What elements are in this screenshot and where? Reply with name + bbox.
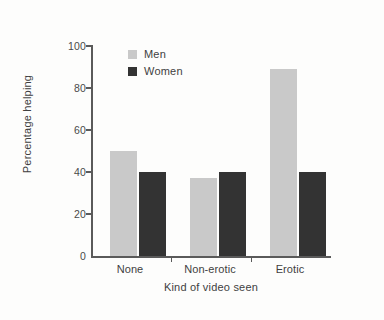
y-tick-label-40: 40 bbox=[56, 166, 86, 178]
legend-label-women: Women bbox=[144, 66, 183, 77]
bar-nonerotic-men bbox=[190, 178, 217, 256]
legend-swatch-women bbox=[128, 67, 137, 76]
y-tick-100 bbox=[86, 45, 91, 46]
legend: Men Women bbox=[128, 47, 183, 81]
x-axis-line bbox=[91, 256, 331, 258]
bar-erotic-men bbox=[270, 69, 297, 256]
legend-swatch-men bbox=[128, 50, 137, 59]
y-tick-label-60: 60 bbox=[56, 124, 86, 136]
bar-none-men bbox=[110, 151, 137, 256]
x-tick-1 bbox=[171, 257, 172, 262]
y-tick-label-20: 20 bbox=[56, 208, 86, 220]
x-axis-title: Kind of video seen bbox=[92, 281, 330, 293]
x-tick-label-erotic: Erotic bbox=[240, 263, 340, 275]
bar-erotic-women bbox=[299, 172, 326, 256]
y-tick-label-100: 100 bbox=[56, 40, 86, 52]
bar-chart-figure: 100 80 60 40 20 0 Percentage helping Non… bbox=[0, 0, 384, 320]
y-tick-40 bbox=[86, 171, 91, 172]
legend-item-women: Women bbox=[128, 64, 183, 79]
y-tick-label-0: 0 bbox=[56, 250, 86, 262]
y-tick-80 bbox=[86, 87, 91, 88]
x-tick-2 bbox=[251, 257, 252, 262]
y-tick-20 bbox=[86, 213, 91, 214]
bar-none-women bbox=[139, 172, 166, 256]
legend-item-men: Men bbox=[128, 47, 183, 62]
y-tick-60 bbox=[86, 129, 91, 130]
legend-label-men: Men bbox=[144, 49, 166, 60]
y-axis-title: Percentage helping bbox=[21, 59, 33, 189]
bar-nonerotic-women bbox=[219, 172, 246, 256]
y-tick-label-80: 80 bbox=[56, 82, 86, 94]
